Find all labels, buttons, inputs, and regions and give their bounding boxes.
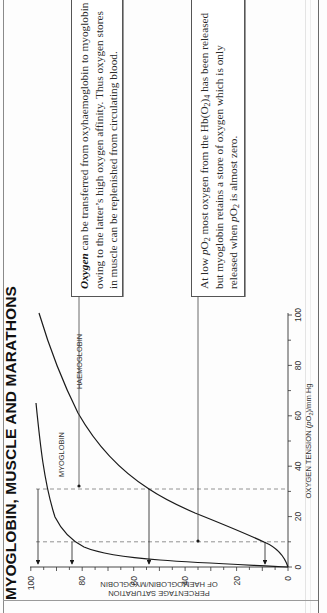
- annotation-box-oxygen-transfer: Oxygen can be transferred from oxyhaemog…: [71, 0, 123, 297]
- myoglobin-label: MYOGLOBIN: [57, 432, 66, 477]
- haemoglobin-label: HAEMOGLOBIN: [75, 334, 84, 389]
- y-axis-ticks: [31, 567, 288, 571]
- svg-text:20: 20: [232, 576, 242, 586]
- box1-line3: in muscle can be replenished from circul…: [106, 0, 121, 289]
- svg-text:PERCENTAGE SATURATION: PERCENTAGE SATURATION: [108, 589, 210, 598]
- x-axis-title: OXYGEN TENSION (pO2)/mm Hg: [304, 383, 314, 498]
- connector-dot: [77, 484, 80, 487]
- svg-text:0: 0: [283, 576, 293, 581]
- oxygen-dissociation-chart: 0 20 40 60 80 100 OXYGEN TENSION (pO2)/m…: [0, 0, 327, 613]
- myoglobin-curve: [36, 403, 288, 567]
- svg-text:40: 40: [293, 461, 303, 471]
- x-axis-tick-labels: 0 20 40 60 80 100: [293, 308, 303, 570]
- x-axis-ticks: [288, 315, 292, 567]
- box1-line2: owing to the latter’s high oxygen affini…: [92, 0, 107, 289]
- box2-line2: but myoglobin retains a store of oxygen …: [212, 0, 227, 289]
- svg-text:60: 60: [293, 411, 303, 421]
- box1-line1: Oxygen can be transferred from oxyhaemog…: [77, 0, 92, 289]
- annotation-connectors: [79, 295, 198, 541]
- rotated-page: MYOGLOBIN, MUSCLE AND MARATHONS 0 20 40 …: [0, 0, 327, 613]
- svg-text:0: 0: [293, 564, 303, 569]
- saturation-arrows: [38, 489, 265, 564]
- box2-line1: At low pO2 most oxygen from the Hb(O2)4 …: [197, 0, 212, 289]
- annotation-box-low-po2: At low pO2 most oxygen from the Hb(O2)4 …: [191, 0, 245, 297]
- svg-text:100: 100: [26, 576, 36, 590]
- svg-text:80: 80: [293, 360, 303, 370]
- connector-dot: [196, 539, 199, 542]
- svg-text:20: 20: [293, 512, 303, 522]
- y-axis-title: PERCENTAGE SATURATION OF HAEMOGLOBIN/MYO…: [100, 580, 217, 598]
- axes: [30, 313, 288, 567]
- svg-text:100: 100: [293, 308, 303, 322]
- svg-text:OF HAEMOGLOBIN/MYOGLOBIN: OF HAEMOGLOBIN/MYOGLOBIN: [100, 580, 217, 589]
- box2-line3: released when pO2 is almost zero.: [226, 0, 241, 289]
- svg-text:80: 80: [77, 576, 87, 586]
